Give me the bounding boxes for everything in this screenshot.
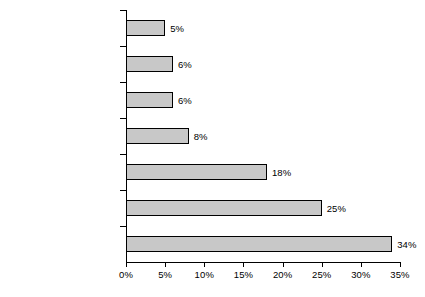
x-axis-tick-label: 10% <box>195 269 214 280</box>
bar-row: Homeless5% <box>126 10 400 46</box>
bar-row: Supervised living18% <box>126 154 400 190</box>
bar-value-label: 18% <box>272 167 291 178</box>
bar <box>126 92 173 108</box>
x-axis-tick-label: 15% <box>234 269 253 280</box>
bar-value-label: 5% <box>170 23 184 34</box>
bar <box>126 200 322 216</box>
y-axis-tick <box>120 226 126 227</box>
bar-value-label: 8% <box>194 131 208 142</box>
y-axis-tick <box>120 82 126 83</box>
x-axis-tick <box>165 262 166 267</box>
bar <box>126 56 173 72</box>
bar-value-label: 34% <box>397 239 416 250</box>
x-axis-tick-label: 25% <box>312 269 331 280</box>
bar-chart: Homeless5%Hospitals6%Jails6%Nursing home… <box>0 0 425 297</box>
bar-value-label: 6% <box>178 59 192 70</box>
y-axis-tick <box>120 10 126 11</box>
bar-value-label: 6% <box>178 95 192 106</box>
bar-row: Unsupervised living34% <box>126 226 400 262</box>
x-axis-line <box>126 262 401 263</box>
x-axis-tick-label: 0% <box>119 269 133 280</box>
x-axis-tick <box>283 262 284 267</box>
x-axis-tick <box>204 262 205 267</box>
y-axis-tick <box>120 46 126 47</box>
bar <box>126 164 267 180</box>
x-axis-tick <box>243 262 244 267</box>
x-axis-tick-label: 20% <box>273 269 292 280</box>
bar-row: Nursing homes8% <box>126 118 400 154</box>
bar-row: Hospitals6% <box>126 46 400 82</box>
x-axis-tick <box>126 262 127 267</box>
plot-area: Homeless5%Hospitals6%Jails6%Nursing home… <box>126 10 400 262</box>
x-axis-tick <box>400 262 401 267</box>
x-axis-tick-label: 35% <box>390 269 409 280</box>
bar-row: Jails6% <box>126 82 400 118</box>
x-axis-tick-label: 30% <box>351 269 370 280</box>
y-axis-tick <box>120 154 126 155</box>
y-axis-tick <box>120 118 126 119</box>
bar <box>126 128 189 144</box>
bar <box>126 236 392 252</box>
x-axis-tick <box>322 262 323 267</box>
bar-value-label: 25% <box>327 203 346 214</box>
x-axis-tick-label: 5% <box>158 269 172 280</box>
x-axis-tick <box>361 262 362 267</box>
bar-row: Living with family member25% <box>126 190 400 226</box>
bar <box>126 20 165 36</box>
y-axis-tick <box>120 190 126 191</box>
